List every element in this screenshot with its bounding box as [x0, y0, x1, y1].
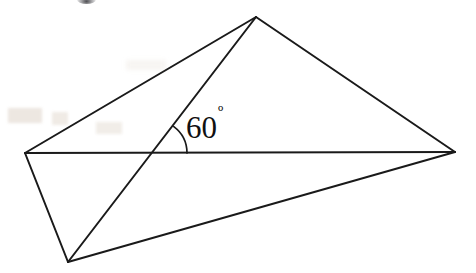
- geometry-diagram-svg: 60º: [0, 0, 476, 273]
- segment-left-to-bottom: [25, 153, 68, 262]
- angle-label-60-degrees: 60º: [186, 103, 223, 146]
- segment-bottom-to-right: [68, 152, 455, 262]
- segment-apex-to-bottom: [68, 17, 256, 262]
- segment-apex-to-left: [25, 17, 256, 153]
- segment-left-to-right: [25, 152, 455, 153]
- geometry-figure-canvas: 60º: [0, 0, 476, 273]
- segment-apex-to-right: [256, 17, 455, 152]
